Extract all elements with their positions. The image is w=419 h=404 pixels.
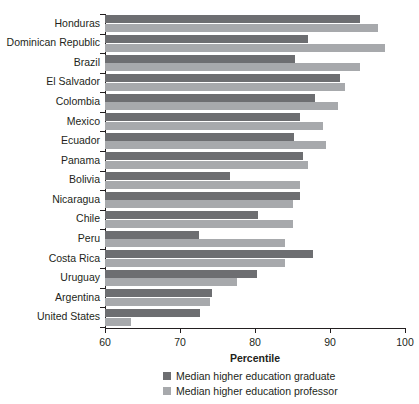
- bar-graduate: [105, 211, 258, 219]
- bar-group: [105, 288, 405, 308]
- bar-graduate: [105, 231, 199, 239]
- y-axis-tick: [100, 288, 105, 289]
- bar-graduate: [105, 192, 300, 200]
- y-axis-label-bolivia: Bolivia: [2, 174, 100, 185]
- bar-group: [105, 131, 405, 151]
- y-axis-label-argentina: Argentina: [2, 292, 100, 303]
- bar-group: [105, 14, 405, 34]
- bar-graduate: [105, 35, 308, 43]
- bar-group: [105, 190, 405, 210]
- x-axis-tick: [105, 328, 106, 333]
- bar-graduate: [105, 74, 340, 82]
- y-axis-tick: [100, 210, 105, 211]
- bar-professor: [105, 161, 308, 169]
- bar-group: [105, 34, 405, 54]
- x-axis-tick: [180, 328, 181, 333]
- y-axis-label-chile: Chile: [2, 213, 100, 224]
- y-axis-tick: [100, 112, 105, 113]
- x-axis-tick-label: 100: [390, 336, 419, 348]
- chart-legend: Median higher education graduate Median …: [163, 369, 413, 399]
- x-axis-tick-label: 60: [90, 336, 120, 348]
- bar-graduate: [105, 15, 360, 23]
- bar-group: [105, 92, 405, 112]
- bar-professor: [105, 278, 237, 286]
- bar-group: [105, 307, 405, 327]
- bar-group: [105, 229, 405, 249]
- bar-professor: [105, 24, 378, 32]
- y-axis-tick: [100, 53, 105, 54]
- y-axis-label-brazil: Brazil: [2, 57, 100, 68]
- y-axis-label-dominican-republic: Dominican Republic: [2, 37, 100, 48]
- x-axis-tick-label: 80: [240, 336, 270, 348]
- y-axis-tick: [100, 307, 105, 308]
- bar-graduate: [105, 113, 300, 121]
- legend-label-professor: Median higher education professor: [176, 385, 338, 397]
- y-axis-label-ecuador: Ecuador: [2, 135, 100, 146]
- y-axis-tick: [100, 268, 105, 269]
- y-axis-label-mexico: Mexico: [2, 116, 100, 127]
- y-axis-label-el-salvador: El Salvador: [2, 76, 100, 87]
- y-axis-tick: [100, 131, 105, 132]
- bar-professor: [105, 141, 326, 149]
- y-axis-tick: [100, 92, 105, 93]
- bar-professor: [105, 259, 285, 267]
- y-axis-label-nicaragua: Nicaragua: [2, 194, 100, 205]
- y-axis-label-honduras: Honduras: [2, 18, 100, 29]
- x-axis-tick: [255, 328, 256, 333]
- bar-group: [105, 249, 405, 269]
- y-axis-tick: [100, 151, 105, 152]
- legend-swatch-graduate-icon: [163, 372, 171, 380]
- bar-group: [105, 112, 405, 132]
- bar-graduate: [105, 172, 230, 180]
- y-axis-tick: [100, 14, 105, 15]
- bar-professor: [105, 298, 210, 306]
- x-axis-tick-label: 70: [165, 336, 195, 348]
- y-axis-tick: [100, 327, 105, 328]
- legend-label-graduate: Median higher education graduate: [176, 370, 335, 382]
- bar-graduate: [105, 152, 303, 160]
- bar-graduate: [105, 55, 295, 63]
- y-axis-label-colombia: Colombia: [2, 96, 100, 107]
- legend-swatch-professor-icon: [163, 387, 171, 395]
- y-axis-labels: HondurasDominican RepublicBrazilEl Salva…: [0, 14, 100, 328]
- bar-graduate: [105, 289, 212, 297]
- bar-group: [105, 210, 405, 230]
- bar-group: [105, 268, 405, 288]
- y-axis-tick: [100, 190, 105, 191]
- y-axis-label-costa-rica: Costa Rica: [2, 253, 100, 264]
- x-axis-tick: [330, 328, 331, 333]
- bar-professor: [105, 122, 323, 130]
- bar-group: [105, 151, 405, 171]
- y-axis-label-uruguay: Uruguay: [2, 272, 100, 283]
- bar-group: [105, 53, 405, 73]
- y-axis-tick: [100, 171, 105, 172]
- bar-graduate: [105, 250, 313, 258]
- bar-group: [105, 73, 405, 93]
- y-axis-label-panama: Panama: [2, 155, 100, 166]
- y-axis-tick: [100, 229, 105, 230]
- x-axis-title: Percentile: [105, 352, 405, 364]
- x-axis-tick: [405, 328, 406, 333]
- y-axis-label-peru: Peru: [2, 233, 100, 244]
- legend-item-professor: Median higher education professor: [163, 384, 413, 397]
- plot-area: [105, 14, 405, 327]
- bar-professor: [105, 318, 131, 326]
- legend-item-graduate: Median higher education graduate: [163, 369, 413, 382]
- bar-graduate: [105, 270, 257, 278]
- bar-professor: [105, 220, 293, 228]
- bar-graduate: [105, 133, 294, 141]
- bar-graduate: [105, 309, 200, 317]
- y-axis-tick: [100, 249, 105, 250]
- y-axis-label-united-states: United States: [2, 311, 100, 322]
- y-axis-tick: [100, 73, 105, 74]
- bar-professor: [105, 63, 360, 71]
- bar-group: [105, 171, 405, 191]
- bar-professor: [105, 44, 385, 52]
- bar-graduate: [105, 94, 315, 102]
- x-axis-tick-label: 90: [315, 336, 345, 348]
- cropped-title-artifact: [36, 0, 186, 5]
- bar-professor: [105, 102, 338, 110]
- bar-professor: [105, 200, 293, 208]
- y-axis-tick: [100, 34, 105, 35]
- bar-professor: [105, 239, 285, 247]
